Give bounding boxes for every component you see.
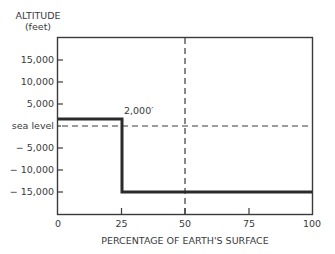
x-axis-title: PERCENTAGE OF EARTH'S SURFACE	[101, 235, 269, 246]
y-tick-label: − 15,000	[10, 186, 54, 197]
x-tick-label: 75	[243, 218, 255, 229]
chart: ALTITUDE (feet) 15,000 10,000 5,000 sea …	[0, 0, 335, 254]
x-tick-label: 25	[115, 218, 127, 229]
x-tick-label: 0	[55, 218, 61, 229]
y-axis-unit: (feet)	[25, 21, 51, 32]
x-tick-label: 50	[179, 218, 191, 229]
y-tick-label: − 5,000	[16, 142, 54, 153]
y-tick-label: − 10,000	[10, 164, 54, 175]
y-tick-label: 10,000	[21, 76, 54, 87]
y-tick-label: 15,000	[21, 54, 54, 65]
y-tick-label: 5,000	[27, 98, 54, 109]
annotation-2000ft: 2,000′	[124, 105, 153, 116]
y-tick-label-sea-level: sea level	[12, 120, 54, 131]
x-tick-label: 100	[303, 218, 321, 229]
y-axis-title: ALTITUDE	[15, 10, 60, 21]
